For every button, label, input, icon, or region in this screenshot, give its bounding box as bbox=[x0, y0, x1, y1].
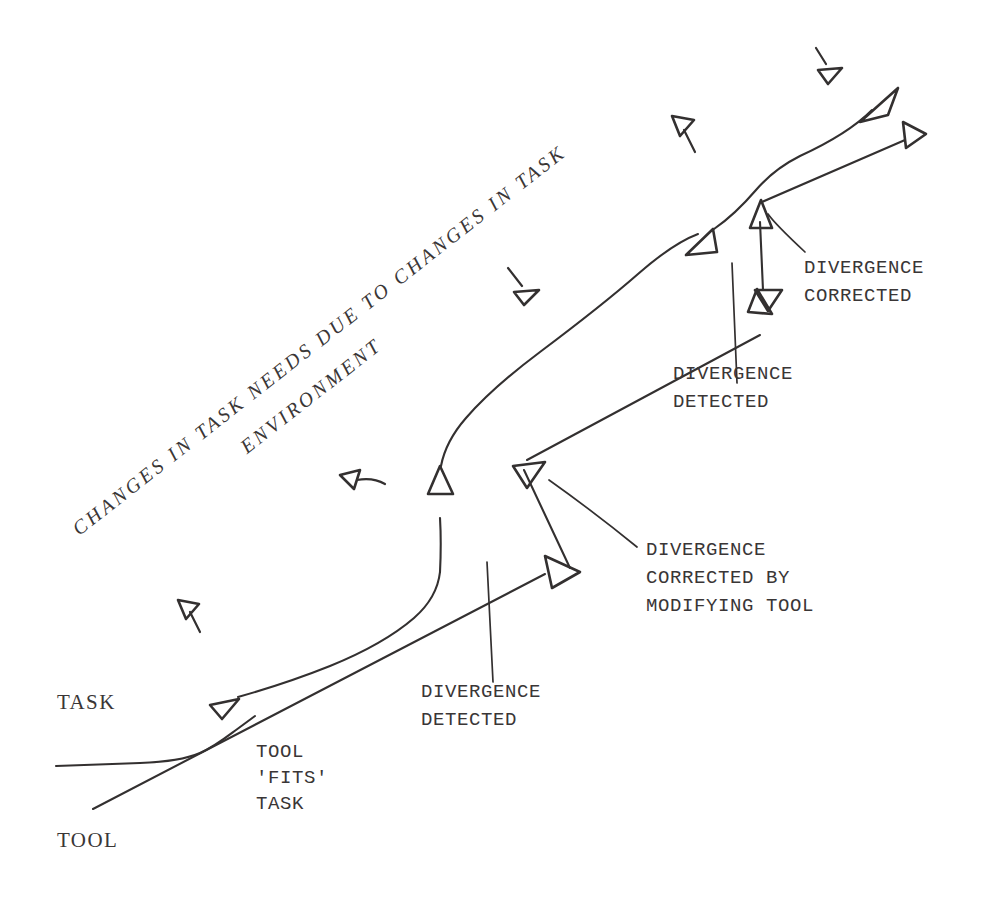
diagram-strokes bbox=[0, 0, 996, 906]
tool-correction-riser-1 bbox=[524, 470, 570, 568]
label-divergence-corrected-by-line1: DIVERGENCE bbox=[646, 536, 766, 564]
pointer-left-mid bbox=[340, 470, 385, 489]
leader-divergence-detected-lower bbox=[487, 562, 493, 682]
label-divergence-detected-lower-line1: DIVERGENCE bbox=[421, 678, 541, 706]
task-arrowhead-2 bbox=[428, 466, 453, 494]
task-arrowhead-3 bbox=[686, 229, 717, 255]
task-curve-segment-2 bbox=[238, 572, 440, 697]
task-curve-segment-3 bbox=[441, 234, 698, 466]
tool-arrowhead-2 bbox=[513, 462, 545, 488]
label-divergence-corrected-by-line3: MODIFYING TOOL bbox=[646, 592, 814, 620]
label-divergence-corrected-by-line2: CORRECTED BY bbox=[646, 564, 790, 592]
pointer-up-left-low bbox=[178, 600, 200, 632]
task-arrowhead-1 bbox=[210, 699, 239, 719]
label-tool-fits-task-line1: TOOL bbox=[256, 738, 304, 766]
pointer-down-right-mid bbox=[508, 268, 539, 305]
label-divergence-corrected-line2: CORRECTED bbox=[804, 282, 912, 310]
label-divergence-corrected-line1: DIVERGENCE bbox=[804, 254, 924, 282]
label-divergence-detected-lower-line2: DETECTED bbox=[421, 706, 517, 734]
label-divergence-detected-upper-line1: DIVERGENCE bbox=[673, 360, 793, 388]
leader-divergence-corrected bbox=[768, 214, 805, 252]
label-tool: TOOL bbox=[57, 826, 118, 854]
diagram-canvas: TASK TOOL TOOL 'FITS' TASK DIVERGENCE DE… bbox=[0, 0, 996, 906]
task-arrowhead-4 bbox=[860, 88, 898, 122]
leader-divergence-corrected-by bbox=[549, 480, 637, 547]
tool-correction-riser-2 bbox=[760, 222, 763, 290]
tool-arrowhead-1 bbox=[545, 556, 580, 588]
label-tool-fits-task-line2: 'FITS' bbox=[256, 764, 328, 792]
pointer-down-right-top bbox=[816, 48, 842, 84]
task-curve-segment-4 bbox=[714, 110, 872, 229]
task-curve-riser-1 bbox=[440, 518, 441, 572]
label-task: TASK bbox=[57, 688, 116, 716]
label-tool-fits-task-line3: TASK bbox=[256, 790, 304, 818]
tool-line-segment-3 bbox=[762, 140, 905, 202]
label-divergence-detected-upper-line2: DETECTED bbox=[673, 388, 769, 416]
tool-arrowhead-5 bbox=[903, 122, 926, 148]
pointer-up-left-high bbox=[672, 116, 695, 152]
